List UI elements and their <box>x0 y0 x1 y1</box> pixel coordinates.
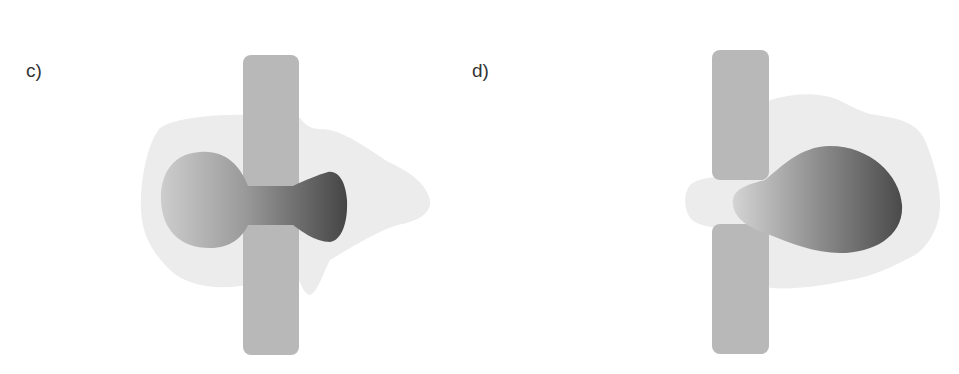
panel-c <box>141 55 430 355</box>
panel-d <box>685 50 940 354</box>
membrane-bar-bottom-d <box>712 224 769 354</box>
membrane-bar-top-d <box>712 50 769 180</box>
diagram-canvas <box>0 0 959 374</box>
